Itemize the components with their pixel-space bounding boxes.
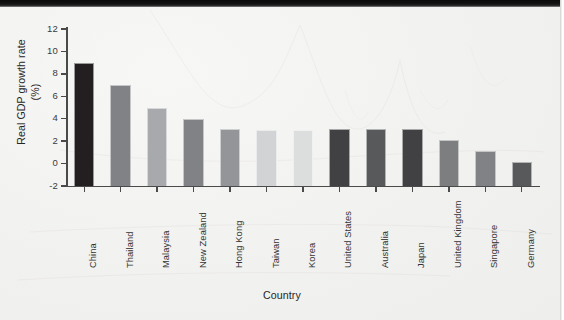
x-label-united-kingdom: United Kingdom [453, 200, 463, 268]
x-tick-taiwan [266, 187, 267, 192]
bar-japan [402, 129, 423, 186]
x-tick-new-zealand [193, 187, 194, 192]
y-tick--2 [61, 185, 66, 186]
y-tick-12 [61, 28, 66, 29]
bar-taiwan [256, 130, 277, 186]
x-label-new-zealand: New Zealand [198, 212, 208, 268]
y-axis-line [66, 27, 68, 187]
x-label-malaysia: Malaysia [161, 231, 171, 268]
y-tick-2 [61, 140, 66, 141]
x-label-japan: Japan [416, 242, 426, 268]
bar-united-states [329, 129, 350, 186]
x-label-germany: Germany [526, 229, 536, 268]
bar-thailand [110, 85, 131, 186]
bar-united-kingdom [439, 140, 460, 186]
x-tick-malaysia [156, 187, 157, 192]
x-label-singapore: Singapore [489, 225, 499, 268]
x-tick-germany [521, 187, 522, 192]
y-axis-title-line1: Real GDP growth rate [14, 17, 28, 167]
x-label-australia: Australia [380, 231, 390, 268]
x-tick-hong-kong [229, 187, 230, 192]
y-tick-0 [61, 163, 66, 164]
x-label-taiwan: Taiwan [271, 238, 281, 268]
bar-chart: 121086420-2 ChinaThailandMalaysiaNew Zea… [0, 0, 564, 320]
y-axis-title: Real GDP growth rate (%) [14, 17, 42, 167]
x-tick-singapore [485, 187, 486, 192]
bar-china [74, 63, 95, 186]
bar-hong-kong [220, 129, 241, 186]
y-tick-6 [61, 96, 66, 97]
x-label-hong-kong: Hong Kong [234, 221, 244, 268]
bar-germany [512, 162, 533, 186]
bar-malaysia [147, 108, 168, 187]
x-label-united-states: United States [343, 211, 353, 268]
x-label-korea: Korea [307, 243, 317, 268]
x-tick-united-kingdom [448, 187, 449, 192]
x-tick-japan [412, 187, 413, 192]
bar-australia [366, 129, 387, 186]
x-axis-title: Country [0, 289, 564, 301]
x-label-thailand: Thailand [125, 232, 135, 268]
x-tick-korea [302, 187, 303, 192]
y-axis-title-line2: (%) [28, 17, 42, 167]
x-tick-united-states [339, 187, 340, 192]
bar-korea [293, 130, 314, 186]
y-tick-10 [61, 51, 66, 52]
x-tick-thailand [120, 187, 121, 192]
x-tick-australia [375, 187, 376, 192]
bar-singapore [475, 151, 496, 186]
bar-new-zealand [183, 119, 204, 186]
y-tick-4 [61, 118, 66, 119]
y-tick-8 [61, 73, 66, 74]
x-tick-china [84, 187, 85, 192]
x-label-china: China [88, 243, 98, 268]
y-tick-label--2: -2 [36, 180, 58, 191]
